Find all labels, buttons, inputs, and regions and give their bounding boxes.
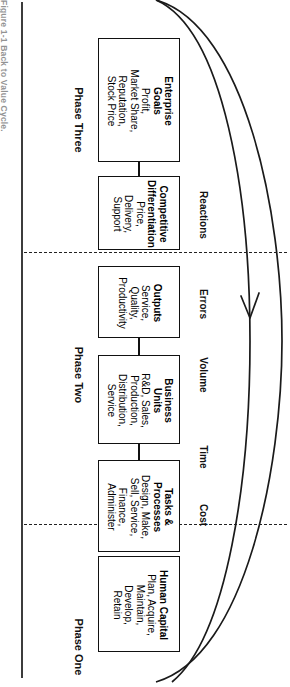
feedback-loop-arrow <box>150 0 290 686</box>
connector-outputs-to-business-units <box>138 338 140 355</box>
phase-label-two: Phase Two <box>70 255 88 495</box>
connector-business-units-to-tasks <box>138 444 140 460</box>
phase-label-one: Phase One <box>70 527 88 687</box>
phase-label-three: Phase Three <box>70 0 88 240</box>
box-body: Profit, Market Share, Reputation, Stock … <box>106 70 152 133</box>
box-body: Design, Make, Sell, Service, Finance, Ad… <box>106 475 152 539</box>
figure-border-rule <box>21 2 23 678</box>
box-body: Price, Delivery, Support <box>111 195 146 233</box>
figure-caption: Figure 1-1 Back to Value Cycle. <box>0 0 11 682</box>
connector-goals-to-differentiation <box>138 162 140 176</box>
box-body: R&D, Sales, Production, Distribution, Se… <box>106 373 152 427</box>
box-body: Service, Quality, Productivity <box>117 277 152 329</box>
